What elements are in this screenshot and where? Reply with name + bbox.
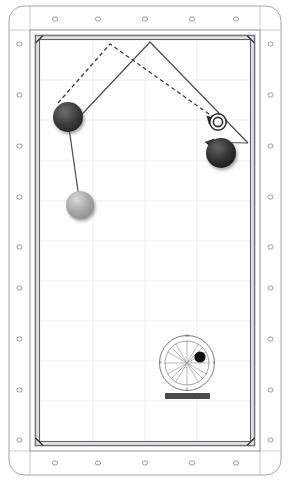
clock-label-9: 9 xyxy=(160,361,162,365)
shot-diagram-canvas: 12 3 6 9 xyxy=(0,0,290,481)
ghost-ball-target xyxy=(210,114,226,130)
tip-contact-dot xyxy=(194,351,205,362)
clock-label-12: 12 xyxy=(185,334,189,338)
clock-spokes xyxy=(165,341,209,385)
english-clock-face: 12 3 6 9 xyxy=(160,334,215,391)
cue-stick-bar xyxy=(165,393,210,399)
ball-cue xyxy=(66,191,94,219)
ball-object-left xyxy=(53,102,83,132)
clock-label-6: 6 xyxy=(186,387,188,391)
ball-object-right xyxy=(206,138,236,168)
pool-table-diagram: 12 3 6 9 xyxy=(0,0,290,481)
clock-label-3: 3 xyxy=(213,361,215,365)
